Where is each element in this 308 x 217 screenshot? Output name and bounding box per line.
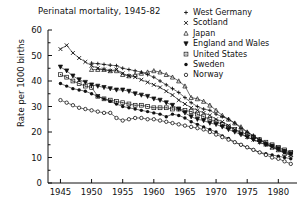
marker-filled-circle xyxy=(177,114,180,117)
marker-triangle-down xyxy=(189,115,193,119)
legend-item-norway[interactable]: Norway xyxy=(184,70,223,79)
marker-filled-circle xyxy=(59,82,62,85)
marker-open-circle xyxy=(202,128,205,131)
marker-filled-circle xyxy=(96,95,99,98)
x-tick-label: 1970 xyxy=(205,187,227,197)
marker-open-circle xyxy=(289,162,292,165)
legend-label: West Germany xyxy=(193,8,252,17)
series-sweden xyxy=(59,82,293,161)
marker-triangle-down xyxy=(184,42,188,46)
marker-square-dot xyxy=(60,74,61,75)
legend-label: Norway xyxy=(193,70,224,79)
marker-open-circle xyxy=(270,156,273,159)
chart-figure: Perinatal mortality, 1945-82 Rate per 10… xyxy=(0,0,308,217)
marker-open-circle xyxy=(196,126,199,129)
marker-filled-circle xyxy=(146,110,149,113)
marker-square-dot xyxy=(172,109,173,110)
marker-square-dot xyxy=(284,149,285,150)
marker-square-dot xyxy=(135,105,136,106)
marker-open-circle xyxy=(171,121,174,124)
legend-item-united-states[interactable]: United States xyxy=(184,50,247,59)
marker-open-circle xyxy=(65,101,68,104)
marker-open-circle xyxy=(102,111,105,114)
marker-square-dot xyxy=(79,83,80,84)
marker-cross xyxy=(59,47,63,51)
marker-open-circle xyxy=(183,124,186,127)
marker-square-dot xyxy=(272,144,273,145)
marker-square-dot xyxy=(191,111,192,112)
marker-square-dot xyxy=(228,126,229,127)
marker-filled-circle xyxy=(115,102,118,105)
marker-cross xyxy=(202,111,206,115)
marker-square-dot xyxy=(247,134,248,135)
marker-open-circle xyxy=(233,141,236,144)
marker-triangle-down xyxy=(71,74,75,78)
marker-open-circle xyxy=(246,146,249,149)
legend-item-japan[interactable]: Japan xyxy=(184,29,215,38)
marker-square-dot xyxy=(141,105,142,106)
marker-open-circle xyxy=(71,104,74,107)
marker-cross xyxy=(158,85,162,89)
marker-square-dot xyxy=(128,103,129,104)
marker-plus xyxy=(208,108,212,112)
legend-item-west-germany[interactable]: West Germany xyxy=(184,8,252,17)
x-tick-label: 1965 xyxy=(174,187,196,197)
marker-open-circle xyxy=(252,148,255,151)
marker-filled-circle xyxy=(152,111,155,114)
marker-triangle-down xyxy=(58,65,62,69)
marker-open-circle xyxy=(221,135,224,138)
marker-cross xyxy=(71,51,75,55)
marker-filled-circle xyxy=(84,90,87,93)
marker-square-dot xyxy=(116,101,117,102)
y-tick-label: 60 xyxy=(31,25,42,35)
plot-area: 0102030405060194519501955196019651970197… xyxy=(0,0,308,217)
legend-label: Japan xyxy=(192,29,215,38)
marker-square-dot xyxy=(166,107,167,108)
marker-cross xyxy=(208,114,212,118)
marker-triangle-down xyxy=(220,125,224,129)
marker-open-circle xyxy=(133,116,136,119)
marker-plus xyxy=(202,107,206,111)
legend-item-scotland[interactable]: Scotland xyxy=(184,18,228,27)
marker-open-circle xyxy=(165,120,168,123)
marker-filled-circle xyxy=(133,107,136,110)
marker-open-circle xyxy=(109,111,112,114)
marker-triangle-down xyxy=(214,122,218,126)
marker-open-circle xyxy=(152,118,155,121)
marker-triangle-down xyxy=(202,119,206,123)
marker-plus xyxy=(115,64,119,68)
y-tick-label: 50 xyxy=(31,51,42,61)
marker-square-dot xyxy=(259,139,260,140)
marker-triangle-down xyxy=(233,130,237,134)
series-line xyxy=(60,67,290,154)
marker-plus xyxy=(164,83,168,87)
marker-cross xyxy=(214,117,218,121)
marker-square-dot xyxy=(216,121,217,122)
marker-square-dot xyxy=(197,114,198,115)
marker-filled-circle xyxy=(183,116,186,119)
marker-filled-circle xyxy=(127,106,130,109)
marker-square-dot xyxy=(234,129,235,130)
marker-triangle-down xyxy=(146,94,150,98)
marker-filled-circle xyxy=(189,120,192,123)
marker-square-dot xyxy=(184,110,185,111)
marker-open-circle xyxy=(283,160,286,163)
marker-open-circle xyxy=(140,116,143,119)
marker-triangle-down xyxy=(158,98,162,102)
marker-open-circle xyxy=(146,118,149,121)
legend-item-sweden[interactable]: Sweden xyxy=(184,60,224,69)
marker-filled-circle xyxy=(184,63,187,66)
marker-plus xyxy=(127,68,131,72)
marker-open-circle xyxy=(264,153,267,156)
marker-square-dot xyxy=(178,109,179,110)
legend-item-england-and-wales[interactable]: England and Wales xyxy=(184,39,269,48)
marker-plus xyxy=(196,105,200,109)
marker-plus xyxy=(214,112,218,116)
marker-open-circle xyxy=(277,157,280,160)
marker-cross xyxy=(196,108,200,112)
legend-label: Scotland xyxy=(193,18,228,27)
y-tick-label: 30 xyxy=(31,102,42,112)
marker-filled-circle xyxy=(65,84,68,87)
x-tick-label: 1960 xyxy=(143,187,165,197)
marker-square-dot xyxy=(278,147,279,148)
